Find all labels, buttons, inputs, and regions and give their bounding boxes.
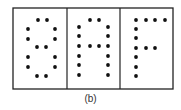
- matrix-dot: [26, 27, 30, 31]
- matrix-dot: [26, 55, 30, 59]
- matrix-dot: [134, 18, 138, 22]
- matrix-dot: [106, 25, 110, 29]
- matrix-dot: [45, 18, 49, 22]
- matrix-dot: [163, 18, 167, 22]
- matrix-dot: [134, 46, 138, 50]
- matrix-dot: [134, 74, 138, 78]
- matrix-dot: [26, 37, 30, 41]
- matrix-dot: [77, 73, 81, 77]
- matrix-dot: [77, 25, 81, 29]
- matrix-dot: [77, 44, 81, 48]
- matrix-dot: [97, 44, 101, 48]
- matrix-dot: [53, 27, 57, 31]
- matrix-dot: [153, 46, 157, 50]
- matrix-dot: [77, 34, 81, 38]
- panel-char-a: [77, 18, 110, 77]
- matrix-dot: [35, 74, 39, 78]
- matrix-dot: [53, 55, 57, 59]
- panel-char-8: [26, 18, 57, 78]
- figure-caption: (b): [0, 93, 181, 104]
- matrix-dot: [88, 44, 92, 48]
- matrix-dot: [144, 18, 148, 22]
- matrix-dot: [106, 44, 110, 48]
- matrix-dot: [44, 45, 48, 49]
- matrix-dot: [77, 63, 81, 67]
- matrix-dot: [134, 55, 138, 59]
- matrix-dot: [144, 46, 148, 50]
- panel-char-f: [134, 18, 167, 78]
- matrix-dot: [134, 27, 138, 31]
- matrix-dot: [77, 54, 81, 58]
- matrix-dot: [134, 36, 138, 40]
- matrix-dot: [106, 63, 110, 67]
- matrix-dot: [106, 73, 110, 77]
- matrix-dot: [153, 18, 157, 22]
- matrix-dot: [97, 18, 101, 22]
- matrix-dot: [106, 34, 110, 38]
- matrix-dot: [53, 37, 57, 41]
- panel-dividers: [67, 8, 120, 89]
- matrix-dot: [88, 18, 92, 22]
- matrix-dot: [35, 45, 39, 49]
- matrix-dot: [53, 65, 57, 69]
- matrix-dot: [36, 18, 40, 22]
- matrix-dot: [44, 74, 48, 78]
- matrix-dot: [134, 65, 138, 69]
- matrix-dot: [26, 65, 30, 69]
- matrix-dot: [106, 54, 110, 58]
